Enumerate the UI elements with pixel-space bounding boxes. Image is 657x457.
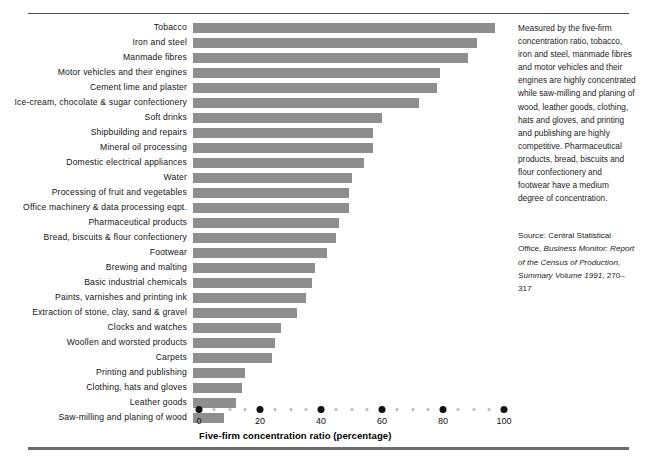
bar-category-label: Ice-cream, chocolate & sugar confectione… [0, 98, 193, 107]
bar-category-label: Pharmaceutical products [0, 218, 193, 227]
bar-category-label: Tobacco [0, 23, 193, 32]
bar-row: Basic industrial chemicals [0, 275, 512, 290]
bar-track [193, 365, 512, 380]
bar-category-label: Domestic electrical appliances [0, 158, 193, 167]
axis-minor-tick [472, 408, 475, 411]
bar-rows: TobaccoIron and steelManmade fibresMotor… [0, 20, 512, 425]
bar-row: Manmade fibres [0, 50, 512, 65]
bar-track [193, 200, 512, 215]
bar [193, 368, 245, 378]
axis-minor-tick [243, 408, 246, 411]
bar [193, 383, 242, 393]
bar-category-label: Processing of fruit and vegetables [0, 188, 193, 197]
axis-major-tick [440, 406, 447, 413]
bar-track [193, 155, 512, 170]
axis-tick-label: 0 [196, 416, 201, 426]
axis-minor-tick [304, 408, 307, 411]
axis-minor-tick [213, 408, 216, 411]
bar-track [193, 215, 512, 230]
bar-category-label: Motor vehicles and their engines [0, 68, 193, 77]
bar [193, 113, 382, 123]
bar-track [193, 65, 512, 80]
bar [193, 278, 312, 288]
axis-tick-label: 40 [316, 416, 326, 426]
bar-track [193, 320, 512, 335]
bar-category-label: Office machinery & data processing eqpt. [0, 203, 193, 212]
bar-category-label: Carpets [0, 353, 193, 362]
axis-minor-tick [228, 408, 231, 411]
bar-category-label: Soft drinks [0, 113, 193, 122]
axis-minor-tick [335, 408, 338, 411]
bar-category-label: Bread, biscuits & flour confectionery [0, 233, 193, 242]
bar-category-label: Clothing, hats and gloves [0, 383, 193, 392]
bar [193, 68, 440, 78]
bar-row: Carpets [0, 350, 512, 365]
bar-category-label: Footwear [0, 248, 193, 257]
axis-minor-tick [289, 408, 292, 411]
axis-major-tick [318, 406, 325, 413]
axis-major-tick [257, 406, 264, 413]
axis-minor-tick [396, 408, 399, 411]
bar-track [193, 335, 512, 350]
bar-category-label: Extraction of stone, clay, sand & gravel [0, 308, 193, 317]
bar-category-label: Manmade fibres [0, 53, 193, 62]
bar-track [193, 35, 512, 50]
bar-track [193, 230, 512, 245]
bar-category-label: Shipbuilding and repairs [0, 128, 193, 137]
bar [193, 158, 364, 168]
bar [193, 353, 272, 363]
bar-category-label: Basic industrial chemicals [0, 278, 193, 287]
bar-category-label: Mineral oil processing [0, 143, 193, 152]
bar [193, 248, 327, 258]
bar-row: Soft drinks [0, 110, 512, 125]
bottom-divider [28, 447, 629, 450]
bar-row: Office machinery & data processing eqpt. [0, 200, 512, 215]
bar [193, 218, 339, 228]
axis-minor-tick [426, 408, 429, 411]
bar-row: Clocks and watches [0, 320, 512, 335]
axis-major-tick [379, 406, 386, 413]
bar [193, 38, 477, 48]
bar-track [193, 260, 512, 275]
bar-row: Mineral oil processing [0, 140, 512, 155]
axis-minor-tick [411, 408, 414, 411]
bar-track [193, 95, 512, 110]
bar-row: Motor vehicles and their engines [0, 65, 512, 80]
bar [193, 53, 468, 63]
bar-row: Domestic electrical appliances [0, 155, 512, 170]
axis-tick-label: 100 [496, 416, 511, 426]
bar-row: Extraction of stone, clay, sand & gravel [0, 305, 512, 320]
bar [193, 293, 306, 303]
bar-category-label: Brewing and malting [0, 263, 193, 272]
bar-track [193, 305, 512, 320]
bar-track [193, 80, 512, 95]
chart-page: TobaccoIron and steelManmade fibresMotor… [0, 0, 657, 457]
bar-row: Brewing and malting [0, 260, 512, 275]
bar [193, 98, 419, 108]
axis-tick-label: 20 [255, 416, 265, 426]
bar [193, 323, 281, 333]
bar-chart: TobaccoIron and steelManmade fibresMotor… [0, 20, 512, 420]
bar-row: Cement lime and plaster [0, 80, 512, 95]
bar-category-label: Printing and publishing [0, 368, 193, 377]
bar-category-label: Paints, varnishes and printing ink [0, 293, 193, 302]
bar-row: Clothing, hats and gloves [0, 380, 512, 395]
bar [193, 263, 315, 273]
commentary-text: Measured by the five-firm concentration … [518, 22, 636, 205]
bar [193, 23, 495, 33]
axis-minor-tick [457, 408, 460, 411]
axis-minor-tick [487, 408, 490, 411]
bar [193, 203, 349, 213]
bar-category-label: Leather goods [0, 398, 193, 407]
bar [193, 188, 349, 198]
bar-row: Pharmaceutical products [0, 215, 512, 230]
top-divider [28, 13, 629, 14]
bar [193, 143, 373, 153]
bar-track [193, 185, 512, 200]
x-axis-tick-labels: 020406080100 [199, 416, 511, 430]
bar-track [193, 125, 512, 140]
bar-row: Footwear [0, 245, 512, 260]
bar [193, 233, 336, 243]
bar-row: Iron and steel [0, 35, 512, 50]
bar-row: Bread, biscuits & flour confectionery [0, 230, 512, 245]
